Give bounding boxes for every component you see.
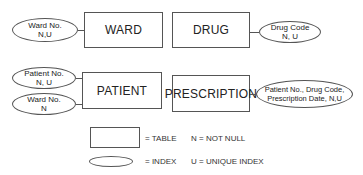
legend-table-label: = TABLE — [145, 134, 177, 143]
table-label: PATIENT — [97, 84, 147, 98]
index-label: Drug Code — [271, 23, 310, 32]
connector — [250, 32, 259, 33]
table-label: WARD — [105, 23, 142, 37]
index-flags: N, U — [36, 78, 52, 87]
index-prescription-key: Patient No., Drug Code, Prescription Dat… — [256, 80, 353, 108]
index-label: Ward No. — [27, 95, 61, 104]
legend-unique-index: U = UNIQUE INDEX — [191, 157, 264, 166]
legend-not-null: N = NOT NULL — [191, 134, 245, 143]
legend-table-symbol — [90, 127, 140, 148]
index-flags: Prescription Date, N,U — [267, 94, 342, 103]
index-drug-code: Drug Code N, U — [259, 21, 321, 43]
table-patient: PATIENT — [82, 72, 162, 109]
table-label: DRUG — [193, 23, 229, 37]
table-ward: WARD — [84, 12, 163, 48]
table-label: PRESCRIPTION — [165, 87, 257, 101]
legend-index-symbol — [89, 156, 133, 167]
index-ward-no: Ward No. N,U — [12, 18, 78, 42]
table-drug: DRUG — [172, 12, 250, 48]
table-prescription: PRESCRIPTION — [172, 75, 250, 112]
index-label: Patient No., Drug Code, — [265, 85, 345, 94]
index-patient-no: Patient No. N, U — [12, 67, 76, 89]
index-flags: N — [41, 104, 47, 113]
index-label: Patient No. — [24, 69, 64, 78]
index-label: Ward No. — [28, 21, 62, 30]
legend-index-label: = INDEX — [145, 157, 176, 166]
index-flags: N, U — [282, 32, 298, 41]
index-flags: N,U — [38, 30, 52, 39]
index-ward-no-patient: Ward No. N — [12, 93, 76, 115]
